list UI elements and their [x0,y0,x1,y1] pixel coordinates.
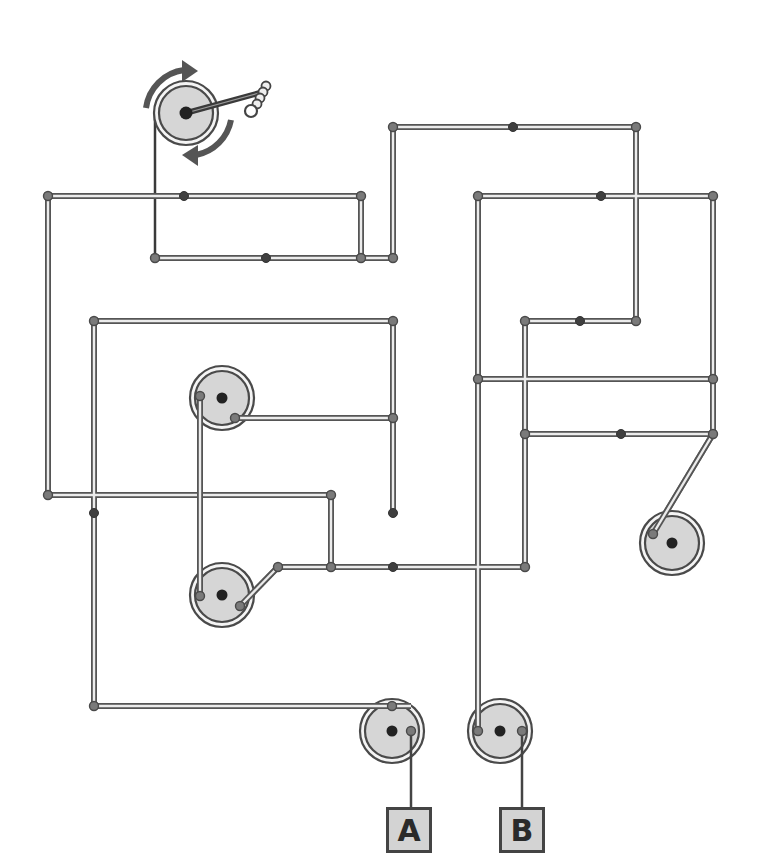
pulley-3 [640,511,704,575]
pin-dot [576,317,585,326]
joint-dot [521,317,530,326]
output-b-label: B [511,813,534,848]
joint-dot [44,192,53,201]
arrow-head-icon [182,145,198,166]
joint-dot [90,317,99,326]
pin-dot [389,509,398,518]
joint-dot [151,254,160,263]
output-a-label: A [397,813,420,848]
joint-dot [236,602,245,611]
axle-icon [217,590,228,601]
joint-dot [357,254,366,263]
crank-handle-icon [245,82,271,118]
joint-dot [389,123,398,132]
pin-dot [90,509,99,518]
pin-dot [597,192,606,201]
joint-dot [709,430,718,439]
joint-dot [231,414,240,423]
pulley-diagram [0,0,760,864]
pin-dot [509,123,518,132]
joint-dot [196,592,205,601]
joints [44,123,718,736]
axle-icon [387,726,398,737]
joint-dot [632,317,641,326]
joint-dot [632,123,641,132]
joint-dot [474,375,483,384]
joint-dot [521,430,530,439]
crank[interactable] [146,60,271,166]
joint-dot [518,727,527,736]
joint-dot [389,317,398,326]
joint-dot [649,530,658,539]
joint-dot [407,727,416,736]
axle-icon [217,393,228,404]
joint-dot [389,254,398,263]
joint-dot [709,192,718,201]
pin-dot [262,254,271,263]
pin-dot [617,430,626,439]
joint-dot [709,375,718,384]
joint-dot [521,563,530,572]
output-b-box[interactable]: B [499,807,545,853]
joint-dot [327,563,336,572]
axle-icon [667,538,678,549]
pin-dot [180,192,189,201]
rope-network [48,127,713,731]
joint-dot [44,491,53,500]
arrow-head-icon [182,60,198,82]
joint-dot [388,702,397,711]
joint-dot [90,702,99,711]
output-a-box[interactable]: A [386,807,432,853]
joint-dot [274,563,283,572]
pin-dot [389,563,398,572]
joint-dot [474,727,483,736]
joint-dot [327,491,336,500]
joint-dot [474,192,483,201]
axle-icon [495,726,506,737]
joint-dot [357,192,366,201]
joint-dot [389,414,398,423]
axle-icon [180,107,193,120]
joint-dot [196,392,205,401]
